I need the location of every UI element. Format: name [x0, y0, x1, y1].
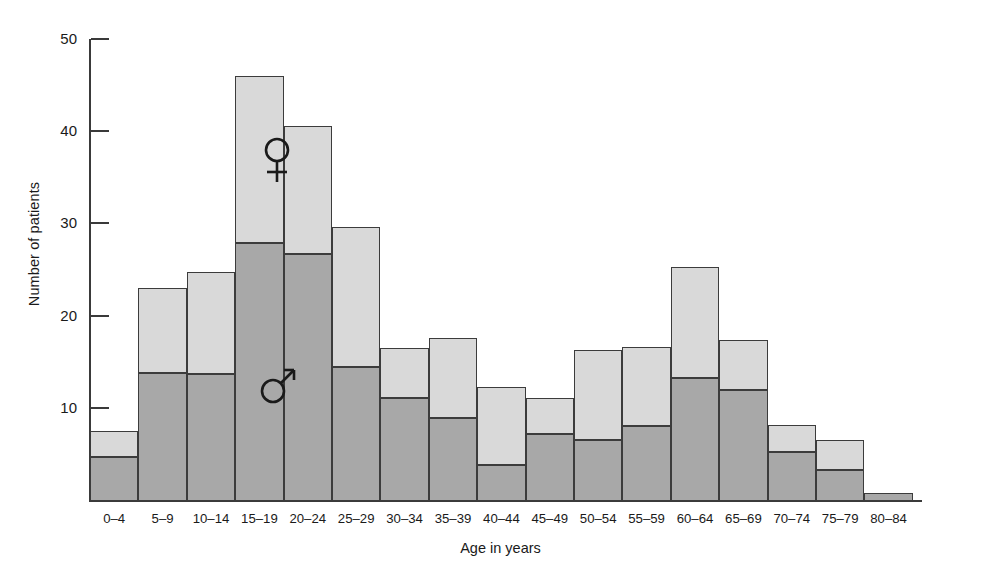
y-tick-mark [91, 407, 109, 409]
bar-segment-male [429, 418, 477, 501]
y-tick-label: 30 [43, 215, 77, 230]
bar-chart: Number of patients Age in years 10203040… [0, 0, 1001, 568]
bar-segment-male [671, 378, 719, 501]
y-tick-mark [91, 222, 109, 224]
bar-segment-female [719, 340, 767, 390]
bar-segment-male [235, 243, 283, 501]
bar-segment-male [332, 367, 380, 501]
bar-segment-male [187, 374, 235, 501]
bar-segment-female [574, 350, 622, 440]
bar-segment-male [768, 452, 816, 501]
bar-segment-female [235, 76, 283, 243]
bar-segment-female [526, 398, 574, 434]
bar-segment-male [284, 254, 332, 501]
bar-segment-female [622, 347, 670, 426]
y-tick-label: 40 [43, 123, 77, 138]
bar-segment-male [622, 426, 670, 501]
bar-segment-female [477, 387, 525, 465]
bar-segment-female [768, 425, 816, 452]
y-tick-label: 50 [43, 31, 77, 46]
bar-segment-female [671, 267, 719, 379]
bar-segment-male [526, 434, 574, 501]
y-tick-mark [91, 38, 109, 40]
x-category-label: 80–84 [858, 512, 918, 525]
bar-segment-male [574, 440, 622, 501]
bar-segment-female [90, 431, 138, 457]
bar-segment-male [380, 398, 428, 501]
bar-segment-female [380, 348, 428, 398]
bar-segment-male [138, 373, 186, 501]
y-tick-label: 20 [43, 308, 77, 323]
y-tick-mark [91, 315, 109, 317]
bar-segment-female [138, 288, 186, 373]
bar-segment-female [284, 126, 332, 254]
bar-segment-male [816, 470, 864, 501]
bar-segment-male [719, 390, 767, 501]
bar-segment-female [332, 227, 380, 367]
bar-segment-male [864, 493, 912, 501]
y-tick-label: 10 [43, 400, 77, 415]
bar-segment-male [477, 465, 525, 501]
y-axis-label: Number of patients [26, 124, 42, 364]
bar-segment-female [816, 440, 864, 470]
bar-segment-female [187, 272, 235, 373]
bar-segment-female [429, 338, 477, 418]
bar-segment-male [90, 457, 138, 501]
y-tick-mark [91, 130, 109, 132]
x-axis-label: Age in years [0, 540, 1001, 556]
